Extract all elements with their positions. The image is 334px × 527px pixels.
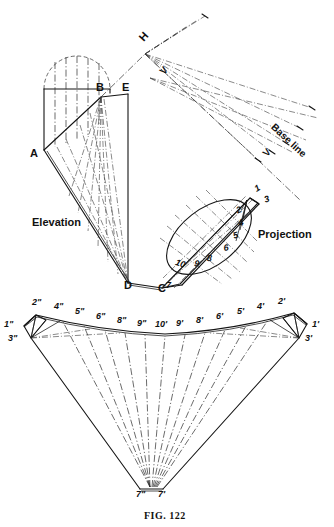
dev-point-5dd: 5" (75, 307, 84, 316)
dev-point-6dd: 6" (96, 312, 105, 321)
dev-point-1d: 1' (312, 320, 319, 329)
dev-point-7dd: 7" (136, 490, 145, 499)
development-pattern (24, 313, 307, 491)
vanishing-rays (101, 14, 318, 200)
elevation-label: Elevation (32, 217, 81, 228)
projection-point-8: 8 (207, 254, 212, 263)
elevation-element-lines (57, 97, 128, 283)
dev-point-9d: 9' (176, 319, 183, 328)
dev-point-3dd: 3" (8, 334, 17, 343)
dev-point-9dd: 9" (137, 319, 146, 328)
dev-point-1dd: 1" (4, 320, 13, 329)
projection-point-7: 7 (166, 281, 171, 290)
dev-point-6d: 6' (216, 312, 223, 321)
point-label-D: D (124, 280, 132, 291)
projection-point-6: 6 (223, 243, 229, 253)
figure-caption: FIG. 122 (144, 511, 186, 521)
point-label-A: A (30, 148, 38, 159)
dev-point-2dd: 2" (32, 298, 41, 307)
point-label-E: E (122, 82, 129, 93)
dev-point-10d: 10' (155, 320, 167, 329)
dev-point-3d: 3' (305, 334, 312, 343)
point-label-B: B (96, 82, 104, 93)
projection-ellipse (153, 185, 265, 289)
dev-point-8d: 8' (196, 316, 203, 325)
dev-point-4d: 4' (257, 302, 264, 311)
dev-point-4dd: 4" (54, 302, 63, 311)
dev-point-7d: 7' (158, 490, 165, 499)
elevation-cone (44, 94, 162, 290)
projection-label: Projection (258, 229, 312, 240)
dev-point-5d: 5' (237, 307, 244, 316)
point-label-C: C (158, 283, 166, 294)
figure-122-drawing: .solid{fill:none;stroke:#141414;stroke-w… (0, 0, 334, 527)
dev-point-8dd: 8" (117, 316, 126, 325)
dev-point-2d: 2' (278, 297, 285, 306)
